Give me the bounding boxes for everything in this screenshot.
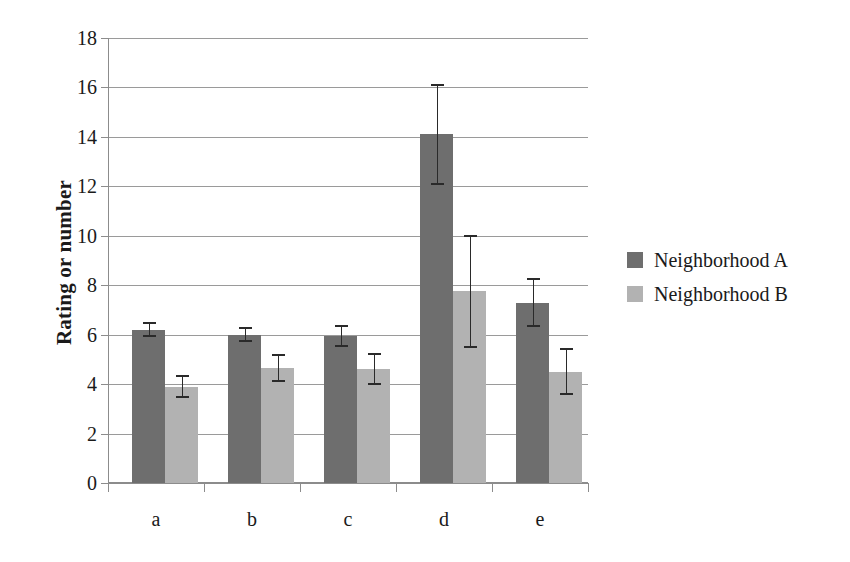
- y-tick-label: 16: [77, 76, 97, 99]
- legend-item: Neighborhood B: [627, 277, 788, 311]
- error-bar-cap: [272, 380, 285, 382]
- gridline: [108, 236, 588, 237]
- error-bar-cap: [176, 375, 189, 377]
- y-tick-label: 6: [87, 323, 97, 346]
- bar-chart-figure: Rating or number 024681012141618 abcde N…: [0, 0, 850, 562]
- error-bar-cap: [464, 346, 477, 348]
- y-tick-mark: [101, 87, 109, 88]
- bar: [357, 369, 390, 483]
- plot-area: 024681012141618 abcde: [108, 38, 588, 483]
- error-bar: [278, 354, 279, 381]
- error-bar-cap: [143, 322, 156, 324]
- error-bar: [341, 325, 342, 347]
- y-axis-line: [108, 38, 109, 483]
- gridline: [108, 186, 588, 187]
- y-tick-mark: [101, 38, 109, 39]
- y-tick-mark: [101, 434, 109, 435]
- x-tick-mark: [492, 483, 493, 492]
- y-tick-mark: [101, 285, 109, 286]
- y-tick-label: 8: [87, 274, 97, 297]
- error-bar-cap: [368, 383, 381, 385]
- error-bar-cap: [335, 325, 348, 327]
- legend-item: Neighborhood A: [627, 243, 788, 277]
- bar: [165, 387, 198, 483]
- x-tick-mark: [204, 483, 205, 492]
- error-bar-cap: [560, 393, 573, 395]
- x-tick-mark: [396, 483, 397, 492]
- error-bar-cap: [272, 354, 285, 356]
- y-tick-mark: [101, 137, 109, 138]
- y-tick-mark: [101, 335, 109, 336]
- x-tick-mark: [108, 483, 109, 492]
- y-tick-mark: [101, 236, 109, 237]
- legend-swatch-icon: [627, 286, 643, 302]
- error-bar-cap: [560, 348, 573, 350]
- bar: [228, 335, 261, 483]
- chart-legend: Neighborhood ANeighborhood B: [627, 243, 788, 311]
- bar: [261, 368, 294, 483]
- gridline: [108, 483, 588, 484]
- error-bar-cap: [527, 325, 540, 327]
- bar: [324, 336, 357, 483]
- error-bar: [470, 235, 471, 349]
- x-tick-mark: [588, 483, 589, 492]
- y-axis-title: Rating or number: [52, 153, 77, 373]
- error-bar: [437, 84, 438, 185]
- legend-label: Neighborhood B: [654, 283, 788, 306]
- error-bar-cap: [143, 335, 156, 337]
- error-bar-cap: [368, 353, 381, 355]
- error-bar-cap: [431, 183, 444, 185]
- gridline: [108, 137, 588, 138]
- error-bar: [533, 278, 534, 327]
- y-tick-mark: [101, 384, 109, 385]
- bar: [516, 303, 549, 483]
- error-bar-cap: [335, 345, 348, 347]
- gridline: [108, 87, 588, 88]
- gridline: [108, 38, 588, 39]
- y-tick-label: 10: [77, 224, 97, 247]
- y-tick-label: 0: [87, 472, 97, 495]
- y-tick-label: 4: [87, 373, 97, 396]
- x-tick-label: d: [439, 508, 449, 531]
- error-bar: [245, 327, 246, 342]
- y-tick-label: 14: [77, 125, 97, 148]
- y-tick-label: 18: [77, 27, 97, 50]
- x-tick-label: e: [536, 508, 545, 531]
- gridline: [108, 285, 588, 286]
- error-bar: [374, 353, 375, 385]
- y-tick-mark: [101, 186, 109, 187]
- bar: [132, 330, 165, 483]
- error-bar: [182, 375, 183, 397]
- legend-label: Neighborhood A: [654, 249, 788, 272]
- error-bar: [149, 322, 150, 337]
- x-tick-label: b: [247, 508, 257, 531]
- error-bar-cap: [431, 84, 444, 86]
- y-tick-label: 2: [87, 422, 97, 445]
- error-bar-cap: [464, 235, 477, 237]
- x-tick-mark: [300, 483, 301, 492]
- legend-swatch-icon: [627, 252, 643, 268]
- error-bar-cap: [239, 327, 252, 329]
- bar: [420, 134, 453, 483]
- x-tick-label: a: [152, 508, 161, 531]
- error-bar-cap: [527, 278, 540, 280]
- error-bar-cap: [176, 396, 189, 398]
- error-bar-cap: [239, 340, 252, 342]
- error-bar: [566, 348, 567, 395]
- y-tick-label: 12: [77, 175, 97, 198]
- x-tick-label: c: [344, 508, 353, 531]
